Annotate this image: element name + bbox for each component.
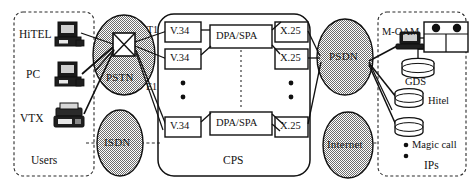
x25-label-3: X.25 [280, 121, 301, 132]
user-label-hitel: HiTEL [19, 29, 52, 41]
pstn-switch-icon [113, 33, 135, 56]
link-v34-2-dpaspa-1 [201, 46, 211, 55]
v34-label-2: V.34 [170, 53, 189, 64]
user-label-vtx: VTX [20, 113, 44, 125]
network-diagram-figure: HiTEL PC VTX Users PSTN ISDN PSDN Intern… [0, 0, 471, 190]
server-rack-icon [424, 22, 468, 52]
psdn-label: PSDN [329, 51, 358, 62]
link-psdn-magiccall [369, 65, 396, 125]
moam-label: M-OAM [382, 27, 419, 38]
v34-label-1: V.34 [170, 26, 189, 37]
dpaspa-label-2: DPA/SPA [216, 118, 257, 129]
database-icon [395, 89, 423, 108]
t1-link-label: T1 [147, 25, 158, 35]
x25-ellipsis-dot [289, 81, 294, 86]
hitel-label: Hitel [428, 96, 449, 107]
link-psdn-hitel [369, 63, 396, 97]
computer-icon [55, 62, 84, 86]
e1-link-label: E1 [146, 82, 157, 92]
user-label-pc: PC [26, 69, 40, 81]
x25-label-1: X.25 [280, 26, 301, 37]
dpaspa-label-1: DPA/SPA [216, 31, 257, 42]
database-icon [395, 118, 423, 137]
link-psdn-providers-extra [369, 62, 392, 110]
pstn-label: PSTN [106, 72, 134, 83]
providers-ellipsis-dot [404, 154, 409, 159]
x25-ellipsis-dot [289, 95, 294, 100]
magiccall-label: Magic call [412, 140, 457, 151]
v34-label-3: V.34 [170, 121, 189, 132]
users-group-label: Users [31, 155, 57, 167]
internet-label: Internet [327, 139, 363, 150]
v34-ellipsis-dot [181, 81, 186, 86]
videotex-terminal-icon [54, 103, 84, 127]
terminal-icon [55, 22, 84, 46]
gds-label: GDS [405, 77, 426, 88]
x25-label-2: X.25 [280, 53, 301, 64]
v34-ellipsis-dot [181, 95, 186, 100]
providers-ellipsis-dot [404, 143, 409, 148]
ips-group-label: IPs [424, 160, 439, 172]
cps-group-label: CPS [223, 155, 243, 167]
database-icon [402, 58, 434, 77]
isdn-label: ISDN [104, 137, 130, 148]
